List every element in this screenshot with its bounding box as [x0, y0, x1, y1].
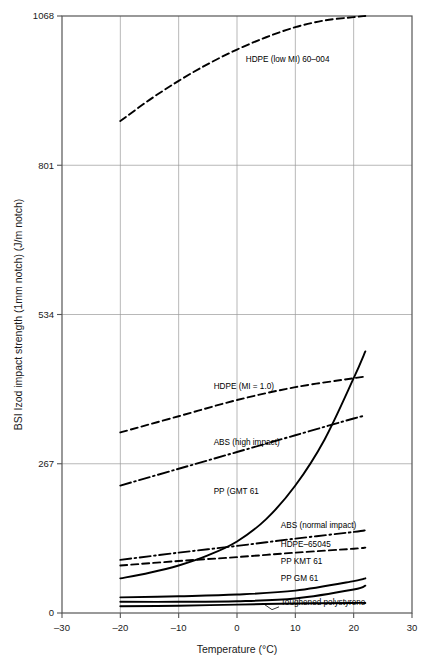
series-label: ABS (high impact) [214, 438, 280, 447]
series-label: PP GM 61 [281, 574, 319, 583]
series-label: HDPE (low MI) 60–004 [246, 55, 330, 64]
x-tick-label: –10 [171, 622, 187, 633]
series-label: HDPE–65045 [281, 540, 332, 549]
y-tick-label: 801 [38, 160, 54, 171]
x-tick-label: –30 [54, 622, 70, 633]
series-label: Toughened polystyrene [281, 598, 366, 607]
y-axis-title: BSI Izod impact strength (1mm notch) (J/… [12, 199, 24, 431]
y-tick-label: 1068 [33, 10, 54, 21]
x-tick-label: 20 [348, 622, 359, 633]
izod-impact-strength-line-chart: 02675348011068–30–20–100102030Temperatur… [0, 0, 426, 667]
y-tick-label: 267 [38, 458, 54, 469]
series-label: PP (GMT 61 [214, 487, 260, 496]
x-tick-label: 0 [234, 622, 239, 633]
series-label: PP KMT 61 [281, 557, 323, 566]
x-axis-title: Temperature (°C) [197, 643, 278, 655]
chart-figure: 02675348011068–30–20–100102030Temperatur… [0, 0, 426, 667]
y-tick-label: 0 [49, 607, 54, 618]
series-label: HDPE (MI = 1.0) [214, 382, 275, 391]
series-label: ABS (normal impact) [281, 521, 357, 530]
x-tick-label: 10 [290, 622, 301, 633]
x-tick-label: –20 [112, 622, 128, 633]
x-tick-label: 30 [407, 622, 418, 633]
y-tick-label: 534 [38, 309, 54, 320]
